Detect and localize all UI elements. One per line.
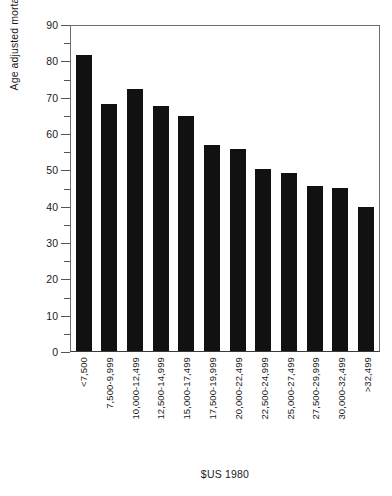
x-axis-label-slot: 15,000-17,499 [178, 353, 194, 463]
bar [332, 188, 348, 351]
y-axis-tick-label: 0 [34, 347, 58, 357]
y-axis-major-tick [61, 61, 70, 62]
bar-series [71, 26, 379, 351]
y-axis-major-tick [61, 243, 70, 244]
x-axis-label-slot: 7,500-9,999 [101, 353, 117, 463]
x-axis-label-slot: 10,000-12,499 [127, 353, 143, 463]
y-axis-tick-label: 80 [34, 56, 58, 66]
y-axis-tick-label: 90 [34, 20, 58, 30]
y-axis-major-tick [61, 279, 70, 280]
x-axis-category-label: 7,500-9,999 [103, 357, 114, 409]
y-axis-tick-label: 40 [34, 202, 58, 212]
x-axis-label-slot: <7,500 [75, 353, 91, 463]
x-axis-category-labels: <7,5007,500-9,99910,000-12,49912,500-14,… [70, 353, 380, 463]
y-axis-major-tick [61, 25, 70, 26]
x-axis-category-label: 30,000-32,499 [336, 357, 347, 420]
bar [153, 106, 169, 351]
bar [358, 207, 374, 351]
x-axis-category-label: 25,000-27,499 [284, 357, 295, 420]
bar [230, 149, 246, 351]
x-axis-label-slot: 27,500-29,999 [307, 353, 323, 463]
y-axis-major-tick [61, 352, 70, 353]
bar [101, 104, 117, 351]
x-axis-label-slot: 17,500-19,999 [204, 353, 220, 463]
y-axis-tick-labels: 9080706050403020100 [30, 0, 58, 496]
bar [255, 169, 271, 351]
x-axis-category-label: 27,500-29,999 [310, 357, 321, 420]
x-axis-category-label: 20,000-22,499 [232, 357, 243, 420]
x-axis-label-slot: 22,500-24,999 [256, 353, 272, 463]
x-axis-category-label: >32,499 [362, 357, 373, 392]
bar [281, 173, 297, 351]
y-axis-major-tick [61, 134, 70, 135]
x-axis-category-label: 12,500-14,999 [155, 357, 166, 420]
bar [204, 145, 220, 351]
y-axis-tick-label: 30 [34, 238, 58, 248]
x-axis-label-slot: 25,000-27,499 [282, 353, 298, 463]
x-axis-category-label: 10,000-12,499 [129, 357, 140, 420]
x-axis-label-slot: 20,000-22,499 [230, 353, 246, 463]
x-axis-category-label: 15,000-17,499 [181, 357, 192, 420]
y-axis-tick-label: 50 [34, 165, 58, 175]
x-axis-label-slot: 12,500-14,999 [152, 353, 168, 463]
plot-area [70, 25, 380, 352]
y-axis-tick-label: 70 [34, 93, 58, 103]
bar [178, 116, 194, 351]
bar-chart-figure: Age adjusted mortality rate per 10,000 p… [0, 0, 392, 496]
y-axis-tick-label: 10 [34, 311, 58, 321]
x-axis-title: $US 1980 [70, 468, 380, 480]
y-axis-major-tick [61, 98, 70, 99]
y-axis-title: Age adjusted mortality rate per 10,000 p… [8, 0, 24, 92]
y-axis-major-tick [61, 170, 70, 171]
y-axis-major-tick [61, 316, 70, 317]
bar [127, 89, 143, 351]
bar [307, 186, 323, 351]
x-axis-label-slot: >32,499 [359, 353, 375, 463]
y-axis-tick-label: 60 [34, 129, 58, 139]
x-axis-category-label: 17,500-19,999 [207, 357, 218, 420]
x-axis-category-label: <7,500 [77, 357, 88, 387]
y-axis-major-tick [61, 207, 70, 208]
x-axis-category-label: 22,500-24,999 [258, 357, 269, 420]
y-axis-tick-label: 20 [34, 274, 58, 284]
bar [76, 55, 92, 351]
x-axis-label-slot: 30,000-32,499 [333, 353, 349, 463]
